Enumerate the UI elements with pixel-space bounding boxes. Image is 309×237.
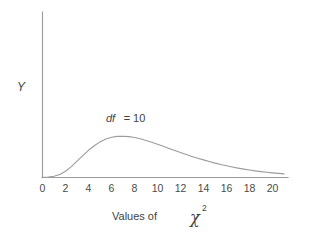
x-tick-label: 0	[40, 182, 46, 194]
x-tick-label: 4	[86, 182, 92, 194]
df-annotation-italic: df	[106, 112, 116, 124]
x-tick-label: 16	[221, 182, 233, 194]
x-tick-label: 6	[109, 182, 115, 194]
y-axis-label: Y	[17, 80, 26, 94]
chi-exponent: 2	[202, 203, 207, 213]
x-tick-label: 14	[198, 182, 210, 194]
chart-svg: Y df = 10 0 2 4 6 8 10 12 14 16 18 20 Va…	[0, 0, 309, 237]
x-axis-title-text: Values of	[112, 210, 158, 222]
chi-symbol: χ	[189, 208, 201, 227]
df-annotation-value: = 10	[124, 112, 146, 124]
chart-background	[0, 0, 309, 237]
chi-square-chart-figure: Y df = 10 0 2 4 6 8 10 12 14 16 18 20 Va…	[0, 0, 309, 237]
x-tick-label: 18	[244, 182, 256, 194]
x-tick-label: 12	[175, 182, 187, 194]
x-tick-label: 2	[63, 182, 69, 194]
x-tick-label: 10	[152, 182, 164, 194]
x-tick-label: 8	[132, 182, 138, 194]
x-tick-label: 20	[267, 182, 279, 194]
